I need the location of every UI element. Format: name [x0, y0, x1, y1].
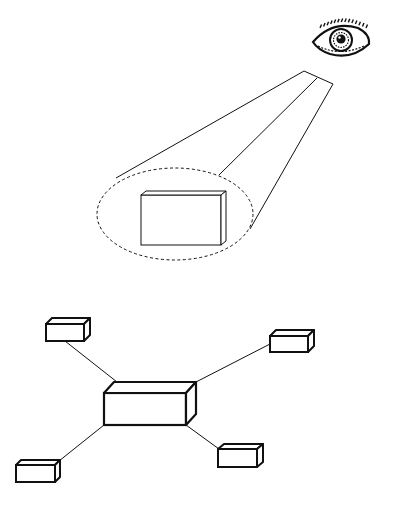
eyelash	[341, 19, 343, 23]
box-front-face	[218, 449, 257, 467]
eyelash	[362, 23, 364, 27]
node-bottom-right-shape	[218, 444, 263, 467]
node-bottom-right-link	[186, 425, 219, 449]
central-node-shape	[104, 382, 196, 425]
cone-ray-3	[250, 84, 333, 229]
eyelash	[352, 20, 354, 24]
box-top-face	[270, 330, 314, 336]
box-side-face	[55, 460, 60, 482]
box-side-face	[221, 191, 226, 245]
diagram-svg	[0, 0, 395, 511]
eyelash	[348, 19, 350, 23]
box-top-face	[46, 318, 90, 324]
box-front-face	[141, 195, 221, 245]
box-top-face	[104, 382, 196, 393]
box-top-face	[16, 460, 60, 465]
box-top-face	[218, 444, 263, 449]
focused-object-box	[141, 191, 226, 245]
eyelash	[338, 19, 340, 23]
node-top-right-link	[196, 344, 270, 382]
eyelash	[345, 19, 347, 23]
box-front-face	[16, 465, 55, 482]
eyelash	[334, 20, 336, 24]
eye-icon	[313, 19, 369, 56]
cone-apex-edge	[304, 71, 333, 84]
eyelash	[359, 22, 361, 26]
eyelash	[320, 25, 322, 29]
eyelash	[366, 25, 368, 29]
eye-highlight	[338, 36, 340, 38]
box-side-face	[257, 444, 263, 467]
observation-panel	[97, 19, 369, 260]
cone-ray-1	[116, 71, 304, 178]
cone-ray-2	[219, 78, 317, 175]
box-front-face	[104, 393, 186, 425]
box-front-face	[46, 324, 84, 341]
box-front-face	[270, 336, 308, 352]
node-top-left-shape	[46, 318, 90, 341]
central-node-box	[104, 382, 196, 425]
eyelash	[331, 21, 333, 25]
node-top-right-shape	[270, 330, 314, 352]
node-top-left-link	[65, 341, 117, 382]
node-bottom-left-shape	[16, 460, 60, 482]
network-panel	[16, 318, 314, 482]
box-top-face	[141, 191, 226, 195]
node-bottom-left-link	[59, 425, 104, 461]
eyelash	[355, 21, 357, 25]
focused-object-shape	[141, 191, 226, 245]
figure-canvas	[0, 0, 395, 511]
eyelash	[327, 22, 329, 26]
eyelash	[324, 23, 326, 27]
eye-pupil	[336, 34, 345, 43]
